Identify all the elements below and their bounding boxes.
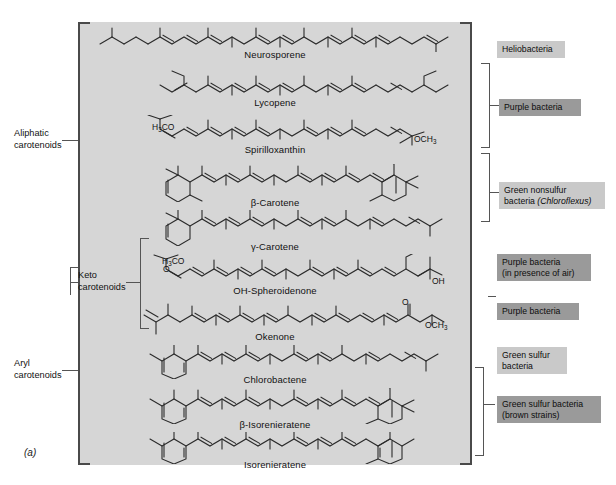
organism-badge-green-sulfur: Green sulfur bacteria <box>497 347 567 374</box>
chem-group-spheroidenone-hydroxyl: OH <box>432 276 445 286</box>
figure-letter: (a) <box>24 447 36 458</box>
molecule-lycopene: Lycopene <box>80 68 470 102</box>
keto-left-bracket-arm <box>70 282 78 283</box>
green-sulfur-brown-bracket-bottom <box>475 455 484 456</box>
compound-label-gamma-carotene: γ-Carotene <box>80 241 470 252</box>
green-sulfur-brown-bracket-spine <box>483 367 484 455</box>
neurosporene-structure <box>80 24 470 52</box>
category-label-keto: Keto carotenoids <box>78 270 130 293</box>
green-sulfur-brown-bracket-leader <box>483 404 495 405</box>
chem-group-spheroidenone-oxo: O <box>163 264 170 274</box>
purple-bracket-bottom <box>481 147 490 148</box>
compound-label-oh-spheroidenone: OH-Spheroidenone <box>80 285 470 296</box>
organism-badge-purple-bacteria-1: Purple bacteria <box>499 99 581 116</box>
molecule-okenone: Okenone <box>80 300 470 336</box>
chem-group-okenone-methoxy: OCH3 <box>425 320 447 330</box>
green-nonsulfur-bracket-top <box>481 153 490 154</box>
molecule-chlorobactene: Chlorobactene <box>80 345 470 379</box>
molecule-spirilloxanthin: Spirilloxanthin <box>80 115 470 149</box>
green-sulfur-brown-bracket-top <box>475 367 484 368</box>
keto-leader-line <box>126 282 140 283</box>
organism-badge-green-nonsulfur: Green nonsulfurbacteria (Chloroflexus) <box>499 182 605 209</box>
organism-badge-purple-bacteria-2: Purple bacteria <box>497 303 579 320</box>
keto-inner-bracket-spine <box>140 238 141 328</box>
molecule-beta-carotene: β-Carotene <box>80 164 470 202</box>
compound-label-beta-isorenieratene: β-Isorenieratene <box>80 419 470 430</box>
keto-inner-bracket-top <box>140 238 149 239</box>
organism-badge-purple-bacteria-air: Purple bacteria (in presence of air) <box>497 254 591 281</box>
chem-group-okenone-oxo: O <box>402 297 409 307</box>
carotenoid-structures-figure: Neurosporene Lycopene <box>0 0 616 485</box>
chem-group-spirilloxanthin-methoxy-left: H3CO <box>152 122 174 132</box>
compound-label-isorenieratene: Isorenieratene <box>80 459 470 470</box>
green-nonsulfur-bracket-leader <box>489 192 499 193</box>
molecule-isorenieratene: Isorenieratene <box>80 432 470 464</box>
molecule-neurosporene: Neurosporene <box>80 24 470 52</box>
leader-line-aliphatic <box>62 140 78 141</box>
compound-label-spirilloxanthin: Spirilloxanthin <box>80 144 470 155</box>
molecule-beta-isorenieratene: β-Isorenieratene <box>80 388 470 424</box>
keto-left-bracket-top <box>70 267 78 268</box>
organism-badge-green-sulfur-brown: Green sulfur bacteria (brown strains) <box>497 396 601 423</box>
keto-inner-bracket-bottom <box>140 328 149 329</box>
compound-label-beta-carotene: β-Carotene <box>80 197 470 208</box>
organism-badge-heliobacteria: Heliobacteria <box>497 41 565 58</box>
compound-label-okenone: Okenone <box>80 331 470 342</box>
cropped-caption-strip <box>180 0 480 6</box>
chem-group-spirilloxanthin-methoxy-right: OCH3 <box>414 134 436 144</box>
green-nonsulfur-bracket-bottom <box>481 221 490 222</box>
panel-right-border <box>470 22 472 465</box>
purple-bracket-leader <box>489 105 499 106</box>
molecule-oh-spheroidenone: OH-Spheroidenone <box>80 254 470 290</box>
green-nonsulfur-bracket-spine <box>489 153 490 221</box>
leader-line-aryl <box>62 370 78 371</box>
molecule-gamma-carotene: γ-Carotene <box>80 210 470 246</box>
keto-left-bracket-spine <box>70 267 71 295</box>
compound-label-chlorobactene: Chlorobactene <box>80 374 470 385</box>
purple-air-leader <box>488 296 496 297</box>
compound-label-neurosporene: Neurosporene <box>80 49 470 60</box>
compound-label-lycopene: Lycopene <box>80 97 470 108</box>
purple-bracket-top <box>481 63 490 64</box>
